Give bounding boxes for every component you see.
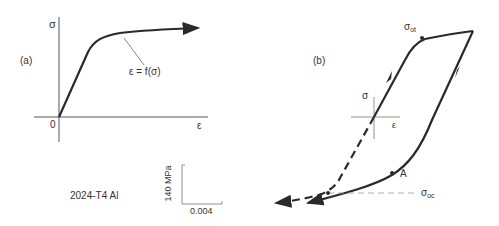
point-sigma-ot-label: σot — [404, 22, 416, 33]
scale-bar-vertical-label: 140 MPa — [164, 165, 173, 201]
panel-b-inset-epsilon-label: ε — [392, 121, 396, 130]
sigma-oc-sub: oc — [427, 192, 434, 199]
point-a — [390, 171, 394, 175]
point-sigma-ot — [420, 36, 424, 40]
panel-b-dashed-curve — [276, 117, 374, 203]
panel-a-epsilon-label: ε — [197, 121, 201, 131]
panel-b-up-arrow — [386, 71, 392, 83]
point-a-label: A — [400, 169, 407, 179]
panel-b-inset-sigma-label: σ — [362, 91, 368, 101]
panel-a-sigma-label: σ — [49, 19, 56, 30]
sigma-ot-sub: ot — [410, 26, 416, 33]
diagram-canvas: (a) σ 0 ε ε = f(σ) 2024-T4 Al 140 MPa 0.… — [0, 0, 499, 226]
panel-a-origin-label: 0 — [50, 120, 56, 130]
panel-b-label: (b) — [313, 56, 325, 66]
scale-bar-horizontal-label: 0.004 — [190, 207, 213, 216]
point-sigma-oc-label: σoc — [421, 188, 435, 199]
panel-a-curve-annotation: ε = f(σ) — [129, 67, 160, 77]
material-label: 2024-T4 Al — [70, 191, 118, 201]
scale-bar — [182, 165, 222, 204]
panel-a-label: (a) — [20, 56, 32, 66]
point-sigma-oc — [326, 191, 330, 195]
panel-a-annotation-leader — [124, 38, 144, 65]
panel-b-loading-curve — [374, 31, 473, 117]
